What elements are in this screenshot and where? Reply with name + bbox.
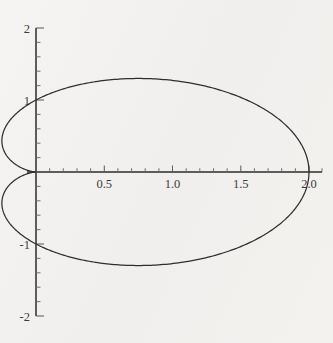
x-axis-major-ticks [104,166,309,173]
x-tick-label-0-5: 0.5 [96,177,112,191]
x-axis-minor-ticks [50,168,322,172]
cardioid-plot-figure: 2 1 -1 -2 0.5 1.0 1.5 2.0 [0,0,333,343]
x-tick-label-1-5: 1.5 [233,177,249,191]
y-tick-label-2: 2 [24,22,30,36]
plot-canvas: 2 1 -1 -2 0.5 1.0 1.5 2.0 [0,0,333,343]
x-tick-label-1-0: 1.0 [165,177,181,191]
y-tick-label-neg2: -2 [20,310,30,324]
